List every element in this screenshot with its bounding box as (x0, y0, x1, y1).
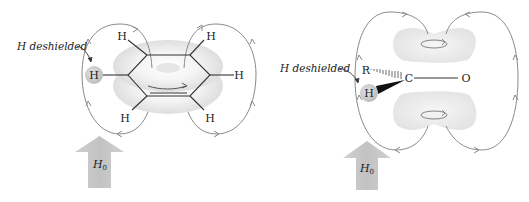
annotation-h-deshielded: H deshielded (16, 40, 87, 52)
benzene-panel: H H H H H H H deshielded H0 (16, 24, 256, 188)
atom-o: O (461, 72, 470, 85)
atom-h-bottom-left: H (120, 112, 130, 125)
upper-pi-cloud (393, 28, 476, 63)
atom-h-top-left: H (117, 30, 127, 43)
atom-h-top-right: H (206, 30, 216, 43)
atom-h-deshielded: H (89, 69, 99, 82)
atom-r: R (362, 64, 371, 77)
hashed-wedge-bond (371, 69, 401, 79)
solid-wedge-bond (376, 80, 405, 94)
atom-h-right: H (234, 69, 244, 82)
carbonyl-panel: R C O H H deshielded H0 (279, 12, 518, 190)
atom-h: H (364, 87, 374, 100)
atom-c: C (405, 72, 413, 85)
atom-h-bottom-right: H (205, 112, 215, 125)
deshielding-diagram: H H H H H H H deshielded H0 (0, 0, 529, 202)
